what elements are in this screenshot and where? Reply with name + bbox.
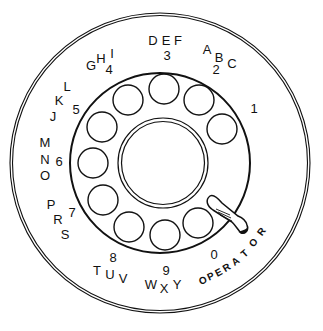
letter-label-u: U: [105, 267, 114, 282]
letter-label-y: Y: [173, 277, 182, 292]
digit-label-1: 1: [250, 101, 257, 116]
letter-label-o: O: [40, 168, 50, 183]
letter-label-n: N: [40, 152, 49, 167]
letter-label-h: H: [96, 51, 105, 66]
finger-hole-2[interactable]: [184, 85, 214, 115]
operator-letter: O: [247, 236, 261, 249]
finger-holes: [78, 74, 237, 250]
letter-label-b: B: [215, 50, 224, 65]
finger-hole-5[interactable]: [87, 112, 117, 142]
letter-label-f: F: [174, 33, 182, 48]
digit-label-8: 8: [109, 250, 116, 265]
letter-label-v: V: [119, 271, 128, 286]
digit-label-0: 0: [210, 247, 217, 262]
letter-label-d: D: [148, 33, 157, 48]
digit-label-7: 7: [68, 205, 75, 220]
digit-label-5: 5: [72, 102, 79, 117]
operator-letter: A: [229, 255, 241, 268]
operator-letter: T: [238, 247, 250, 259]
letter-label-j: J: [50, 109, 57, 124]
finger-hole-9[interactable]: [150, 220, 180, 250]
finger-hole-3[interactable]: [149, 74, 179, 104]
letter-label-a: A: [203, 42, 212, 57]
dial-plate-ring: [70, 73, 250, 253]
letter-label-i: I: [110, 46, 114, 61]
letter-label-c: C: [227, 56, 236, 71]
letter-label-w: W: [145, 277, 158, 292]
letter-label-e: E: [162, 33, 171, 48]
finger-hole-0[interactable]: [183, 208, 213, 238]
letter-label-x: X: [160, 281, 169, 296]
letter-label-s: S: [61, 227, 70, 242]
digit-label-9: 9: [162, 263, 169, 278]
finger-hole-8[interactable]: [114, 212, 144, 242]
finger-hole-1[interactable]: [207, 114, 237, 144]
letter-label-p: P: [47, 197, 56, 212]
letter-label-k: K: [55, 93, 64, 108]
rotary-dial-figure: 12ABC3DEF4GHI5JKL6MNO7PRS8TUV9WXY0 OPERA…: [0, 0, 323, 331]
letter-label-l: L: [63, 79, 70, 94]
digit-label-3: 3: [163, 48, 170, 63]
digit-label-6: 6: [55, 154, 62, 169]
center-label-ring: [118, 118, 208, 208]
finger-hole-6[interactable]: [78, 148, 108, 178]
letter-label-m: M: [40, 135, 51, 150]
finger-hole-4[interactable]: [113, 85, 143, 115]
letter-label-g: G: [86, 58, 96, 73]
letter-label-r: R: [53, 212, 62, 227]
operator-letter: R: [255, 225, 269, 238]
letter-label-t: T: [93, 263, 101, 278]
finger-hole-7[interactable]: [88, 185, 118, 215]
digit-label-4: 4: [105, 62, 112, 77]
